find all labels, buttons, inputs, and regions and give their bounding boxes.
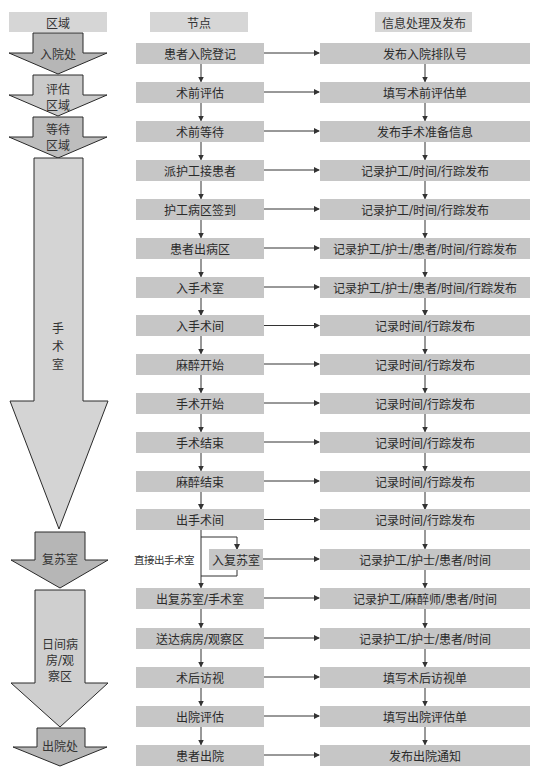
node-box: 手术结束 xyxy=(136,432,264,453)
node-box: 出手术间 xyxy=(136,509,264,530)
info-box: 填写术后访视单 xyxy=(320,667,530,688)
node-box: 入手术间 xyxy=(136,315,264,336)
node-box-recovery: 入复苏室 xyxy=(209,549,263,570)
node-box: 入手术室 xyxy=(136,277,264,298)
info-box: 记录护工/护士/患者/时间 xyxy=(320,549,530,570)
info-box: 记录护工/护士/患者/时间/行踪发布 xyxy=(320,238,530,259)
node-box: 患者出病区 xyxy=(136,238,264,259)
header-node: 节点 xyxy=(150,12,248,32)
info-box: 记录时间/行踪发布 xyxy=(320,315,530,336)
bypass-label: 直接出手术室 xyxy=(134,552,194,567)
info-box: 记录时间/行踪发布 xyxy=(320,393,530,414)
info-box: 记录时间/行踪发布 xyxy=(320,509,530,530)
info-box: 发布入院排队号 xyxy=(320,43,530,64)
info-box: 记录护工/麻醉师/患者/时间 xyxy=(320,588,530,609)
node-box: 派护工接患者 xyxy=(136,160,264,181)
region-label-assessment: 评估 区域 xyxy=(33,82,83,114)
region-label-day-ward: 日间病 房/观 察区 xyxy=(35,637,85,685)
info-box: 填写术前评估单 xyxy=(320,82,530,103)
info-box: 记录时间/行踪发布 xyxy=(320,471,530,492)
node-box: 送达病房/观察区 xyxy=(136,628,264,649)
node-box: 麻醉结束 xyxy=(136,471,264,492)
header-region: 区域 xyxy=(9,12,107,32)
info-box: 记录护工/时间/行踪发布 xyxy=(320,199,530,220)
region-label-discharge: 出院处 xyxy=(35,739,85,755)
node-box: 护工病区签到 xyxy=(136,199,264,220)
node-box: 患者入院登记 xyxy=(136,43,264,64)
region-label-recovery: 复苏室 xyxy=(35,552,85,568)
node-box: 术前评估 xyxy=(136,82,264,103)
info-box: 记录时间/行踪发布 xyxy=(320,354,530,375)
node-box: 出院评估 xyxy=(136,706,264,727)
node-box: 术后访视 xyxy=(136,667,264,688)
info-box: 发布手术准备信息 xyxy=(320,121,530,142)
info-box: 发布出院通知 xyxy=(320,745,530,766)
node-box: 术前等待 xyxy=(136,121,264,142)
info-box: 记录护工/时间/行踪发布 xyxy=(320,160,530,181)
node-box: 手术开始 xyxy=(136,393,264,414)
region-label-operating-room: 手 术 室 xyxy=(33,320,83,374)
node-box: 患者出院 xyxy=(136,745,264,766)
node-box: 出复苏室/手术室 xyxy=(136,588,264,609)
info-box: 记录护工/护士/患者/时间 xyxy=(320,628,530,649)
info-box: 记录时间/行踪发布 xyxy=(320,432,530,453)
region-label-waiting: 等待 区域 xyxy=(33,122,83,154)
header-info: 信息处理及发布 xyxy=(375,12,472,32)
node-box: 麻醉开始 xyxy=(136,354,264,375)
region-label-admission: 入院处 xyxy=(33,47,83,63)
info-box: 记录护工/护士/患者/时间/行踪发布 xyxy=(320,277,530,298)
info-box: 填写出院评估单 xyxy=(320,706,530,727)
